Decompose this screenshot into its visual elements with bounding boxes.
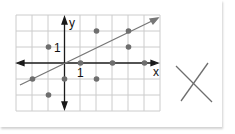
y-axis-up-arrow-icon (62, 17, 67, 24)
y-axis-down-arrow-icon (62, 102, 67, 109)
y-axis-label: y (69, 16, 75, 30)
x-unit-label: 1 (77, 66, 84, 80)
x-axis-left-arrow-icon (17, 61, 24, 66)
x-axis-label: x (153, 65, 159, 79)
trend-line-arrow-icon (150, 18, 158, 24)
y-unit-label: 1 (54, 41, 61, 55)
trend-line (20, 18, 158, 85)
x-mark-icon (176, 63, 212, 102)
scatter-plot: y x 1 1 (0, 0, 235, 134)
